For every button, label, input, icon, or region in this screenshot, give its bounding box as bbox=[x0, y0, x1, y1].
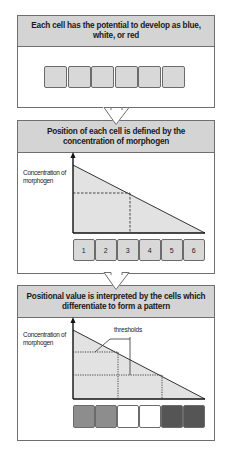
position-cell: 2 bbox=[95, 239, 117, 261]
pattern-cell bbox=[183, 405, 205, 428]
position-cell: 3 bbox=[117, 239, 139, 261]
panel-title: Each cell has the potential to develop a… bbox=[18, 16, 214, 47]
cell bbox=[138, 66, 161, 88]
panel-pattern: Positional value is interpreted by the c… bbox=[17, 285, 215, 441]
position-cell: 6 bbox=[183, 239, 205, 261]
pattern-cell bbox=[117, 405, 139, 428]
cell bbox=[91, 66, 114, 88]
cell bbox=[68, 66, 91, 88]
y-axis-label: Concentration of morphogen bbox=[23, 331, 68, 347]
position-cell: 4 bbox=[139, 239, 161, 261]
thresholds-label: thresholds bbox=[114, 326, 142, 333]
pattern-cell bbox=[95, 405, 117, 428]
pattern-cell bbox=[139, 405, 161, 428]
pattern-cell-row bbox=[73, 405, 205, 428]
position-cell-row: 1 2 3 4 5 6 bbox=[73, 239, 205, 261]
pattern-cell bbox=[73, 405, 95, 428]
panel-potential: Each cell has the potential to develop a… bbox=[17, 15, 215, 108]
y-axis-label: Concentration of morphogen bbox=[23, 169, 68, 185]
position-cell: 5 bbox=[161, 239, 183, 261]
panel-title-text: Position of each cell is defined by the … bbox=[24, 127, 208, 147]
position-cell: 1 bbox=[73, 239, 95, 261]
cell bbox=[44, 66, 67, 88]
cell-row bbox=[44, 66, 185, 88]
panel-title: Position of each cell is defined by the … bbox=[18, 121, 214, 153]
pattern-cell bbox=[161, 405, 183, 428]
cell bbox=[115, 66, 138, 88]
panel-position: Position of each cell is defined by the … bbox=[17, 120, 215, 274]
cell bbox=[162, 66, 185, 88]
panel-title-text: Each cell has the potential to develop a… bbox=[24, 21, 208, 41]
panel-title: Positional value is interpreted by the c… bbox=[18, 286, 214, 318]
panel-title-text: Positional value is interpreted by the c… bbox=[24, 292, 208, 312]
